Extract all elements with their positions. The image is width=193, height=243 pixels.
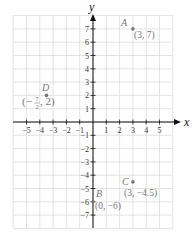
y-tick-labels: 7 6 5 4 3 2 1 −1 −2 −3 −4 −5 −6 −7 [80,25,89,220]
point-b-coords: (0, −6) [95,201,121,212]
x-tick-label: 3 [131,126,135,135]
y-tick-label: 6 [85,38,89,47]
x-tick-labels: −5 −4 −3 −2 −1 1 2 3 4 5 [22,126,161,135]
x-tick-label: 1 [104,126,108,135]
y-tick-label: −3 [80,158,89,167]
point-d-frac-num: 7 [35,95,39,102]
y-tick-label: −7 [80,211,89,220]
point-d-coords-open: (− [22,95,32,108]
point-c-marker [131,180,135,184]
y-axis-arrow-icon [90,14,96,21]
y-tick-label: −2 [80,145,89,154]
y-tick-label: 5 [85,52,89,61]
x-tick-label: −5 [22,126,31,135]
y-tick-label: 1 [85,105,89,114]
point-c-coords: (3, −4.5) [124,188,157,199]
x-axis-label: x [183,115,190,129]
point-b-name: B [96,188,102,199]
point-d: D (− 7 2 , 2) [22,82,55,110]
x-tick-label: −4 [36,126,45,135]
x-tick-label: 5 [158,126,162,135]
point-d-name: D [41,82,50,93]
x-tick-label: 4 [144,126,148,135]
coordinate-plane: x y −5 −4 −3 −2 −1 1 2 3 4 5 7 6 5 4 3 2… [0,0,193,243]
point-a-coords: (3, 7) [134,30,155,41]
point-d-frac-den: 2 [35,103,38,110]
point-c-name: C [122,176,129,187]
x-axis-arrow-icon [174,119,181,125]
x-tick-label: 2 [118,126,122,135]
point-d-coords-close: , 2) [40,95,55,108]
y-tick-label: 2 [85,91,89,100]
y-tick-label: −5 [80,185,89,194]
y-axis-label: y [88,0,95,14]
y-tick-label: −4 [80,171,89,180]
y-tick-label: 7 [85,25,89,34]
x-tick-label: −3 [49,126,58,135]
x-tick-label: −2 [62,126,71,135]
y-tick-label: −6 [80,198,89,207]
y-tick-label: 4 [85,65,89,74]
y-tick-label: −1 [80,131,89,140]
y-tick-label: 3 [85,78,89,87]
point-c: C (3, −4.5) [122,176,157,199]
point-a-name: A [120,17,128,28]
